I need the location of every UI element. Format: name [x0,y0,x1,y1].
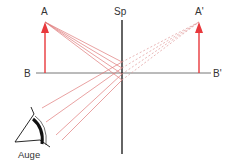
object-arrow [41,22,49,73]
label-a-prime: A' [195,7,204,17]
label-a: A [41,7,48,17]
reflected-rays [42,62,122,140]
eye-icon [15,107,50,147]
label-b: B [24,69,31,79]
label-eye: Auge [18,150,40,160]
mirror-diagram [0,0,235,165]
incident-rays [45,22,122,80]
label-b-prime: B' [213,69,222,79]
virtual-rays [122,22,199,80]
image-arrow [195,22,203,73]
label-sp: Sp [114,7,126,17]
